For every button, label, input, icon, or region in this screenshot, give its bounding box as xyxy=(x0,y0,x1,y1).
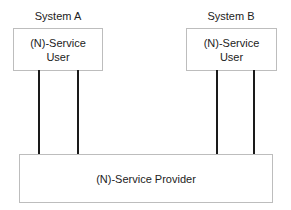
system-a-service-user-box: (N)-Service User xyxy=(13,28,103,71)
connector-b-left xyxy=(216,70,218,155)
system-b-service-user-box: (N)-Service User xyxy=(186,28,277,71)
system-a-box-line2: User xyxy=(30,50,86,64)
connector-a-right xyxy=(77,70,79,155)
system-b-box-line1: (N)-Service xyxy=(204,36,260,50)
system-b-title: System B xyxy=(181,10,281,22)
service-provider-label: (N)-Service Provider xyxy=(96,172,196,186)
connector-a-left xyxy=(38,70,40,155)
connector-b-right xyxy=(253,70,255,155)
system-a-title: System A xyxy=(8,10,108,22)
system-a-box-line1: (N)-Service xyxy=(30,36,86,50)
system-b-box-line2: User xyxy=(204,50,260,64)
service-provider-box: (N)-Service Provider xyxy=(19,154,273,203)
